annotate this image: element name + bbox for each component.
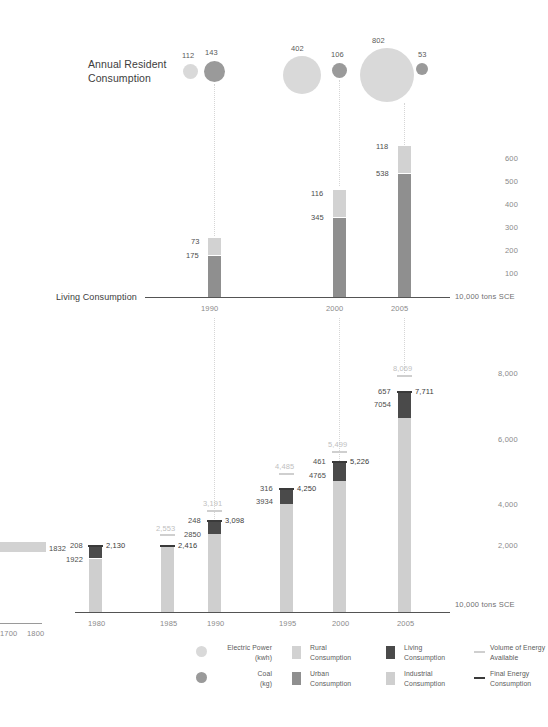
top-bar-value-urban-1990: 175 (186, 251, 199, 260)
legend-label-industrial-consumption: Industrial Consumption (386, 669, 464, 688)
top-bar-urban-2005 (398, 174, 411, 297)
bottom-marker-available-1985 (160, 534, 175, 536)
bottom-marker-final-1980 (88, 545, 103, 547)
legend-item-urban-consumption: Urban Consumption (292, 669, 370, 691)
bottom-bar-value-available-1985: 2,553 (156, 524, 175, 533)
bubble-value-electric-1990: 112 (182, 51, 194, 60)
bottom-bar-value-final-1985: 2,416 (178, 541, 197, 550)
bottom-bar-value-living-1995: 316 (260, 484, 273, 493)
bottom-xtick-1995: 1995 (279, 619, 297, 628)
legend-label-coal: Coal (kg) (196, 669, 272, 688)
bottom-marker-available-2000 (332, 451, 347, 453)
bottom-marker-final-1995 (279, 488, 294, 490)
legend-label-final-energy: Final Energy Consumption (474, 669, 548, 688)
partial-bar-value: 1832 (49, 544, 66, 553)
legend-item-rural-consumption: Rural Consumption (292, 643, 370, 665)
bottom-marker-final-2005 (397, 391, 412, 393)
top-bar-urban-2000 (333, 218, 346, 297)
bottom-bar-value-industrial-2000: 4765 (309, 471, 326, 480)
bubble-value-coal-2005: 53 (418, 50, 427, 59)
partial-axis-line (0, 623, 42, 624)
bubble-coal-2000 (332, 63, 347, 78)
bottom-bar-industrial-1980 (89, 559, 102, 612)
top-unit-label: 10,000 tons SCE (455, 292, 515, 301)
partial-bar-1832 (0, 542, 46, 552)
industrial-consumption-icon (386, 672, 395, 685)
bottom-bar-industrial-2005 (398, 418, 411, 612)
top-xtick-1990: 1990 (201, 304, 219, 313)
rural-consumption-icon (292, 646, 301, 659)
electric-power-icon (196, 646, 207, 657)
bottom-ytick-4000: 4,000 (498, 500, 518, 509)
bottom-bar-industrial-1985 (161, 546, 174, 612)
volume-available-icon (474, 651, 485, 653)
bottom-bar-living-2000 (333, 462, 346, 481)
bottom-bar-industrial-1995 (280, 504, 293, 612)
bubble-electric-2005 (360, 48, 414, 102)
top-bar-value-rural-2000: 116 (311, 189, 323, 198)
top-bar-rural-1990 (208, 238, 221, 255)
top-bar-urban-1990 (208, 256, 221, 297)
top-bar-value-rural-1990: 73 (191, 237, 200, 246)
bottom-bar-value-final-2000: 5,226 (350, 457, 369, 466)
legend-label-volume-available: Volume of Energy Available (474, 643, 548, 662)
bottom-bar-value-industrial-1980: 1922 (66, 555, 83, 564)
bottom-marker-available-2005 (397, 375, 412, 377)
legend-label-living-consumption: Living Consumption (386, 643, 464, 662)
top-ytick-400: 400 (505, 200, 518, 209)
legend-item-coal: Coal (kg) (196, 669, 272, 691)
bottom-marker-final-2000 (332, 461, 347, 463)
bubble-electric-1990 (183, 64, 198, 79)
top-ytick-600: 600 (505, 154, 518, 163)
urban-consumption-icon (292, 672, 301, 685)
bottom-ytick-2000: 2,000 (498, 541, 518, 550)
bottom-bar-living-2005 (398, 392, 411, 418)
bottom-unit-label: 10,000 tons SCE (455, 600, 515, 609)
bottom-marker-available-1990 (207, 510, 222, 512)
bottom-bar-value-final-1980: 2,130 (106, 541, 125, 550)
legend-label-electric-power: Electric Power (kwh) (196, 643, 272, 662)
bottom-bar-value-available-1995: 4,485 (275, 462, 294, 471)
top-ytick-200: 200 (505, 246, 518, 255)
bottom-xtick-1985: 1985 (160, 619, 178, 628)
bottom-marker-final-1990 (207, 520, 222, 522)
infographic-canvas: Annual Resident Consumption 112 143 402 … (0, 0, 548, 727)
bottom-bar-industrial-1990 (208, 534, 221, 612)
bubble-value-electric-2005: 802 (372, 36, 385, 45)
legend-item-volume-available: Volume of Energy Available (474, 643, 548, 665)
bottom-bar-value-industrial-2005: 7054 (374, 400, 391, 409)
bottom-bar-value-living-1990: 248 (188, 516, 201, 525)
bottom-bar-living-1980 (89, 546, 102, 558)
living-consumption-label: Living Consumption (56, 292, 137, 302)
top-bar-value-urban-2005: 538 (376, 169, 389, 178)
living-consumption-icon (386, 646, 395, 659)
bottom-bar-value-available-2000: 5,499 (328, 440, 347, 449)
partial-xtick-1700: 1700 (0, 629, 18, 638)
bubble-coal-2005 (416, 63, 428, 75)
bottom-bar-value-industrial-1995: 3934 (256, 497, 273, 506)
bottom-axis-line (75, 612, 450, 613)
top-ytick-100: 100 (505, 269, 518, 278)
bottom-bar-value-living-2005: 657 (378, 387, 391, 396)
bottom-bar-living-1995 (280, 489, 293, 504)
bottom-bar-value-available-1990: 3,191 (203, 499, 222, 508)
legend-label-urban-consumption: Urban Consumption (292, 669, 370, 688)
top-xtick-2005: 2005 (391, 304, 409, 313)
bottom-bar-value-final-1990: 3,098 (225, 516, 244, 525)
bottom-marker-final-1985 (160, 545, 175, 547)
final-energy-icon (474, 677, 485, 679)
top-bar-rural-2000 (333, 190, 346, 217)
bottom-bar-value-living-1980: 208 (70, 541, 83, 550)
top-axis-line (145, 297, 450, 298)
bubble-value-coal-2000: 106 (331, 50, 344, 59)
top-ytick-300: 300 (505, 223, 518, 232)
connector-1990 (214, 84, 215, 236)
legend-item-final-energy: Final Energy Consumption (474, 669, 548, 691)
top-ytick-500: 500 (505, 177, 518, 186)
bubble-coal-1990 (204, 61, 225, 82)
legend-label-rural-consumption: Rural Consumption (292, 643, 370, 662)
coal-icon (196, 672, 207, 683)
legend-item-living-consumption: Living Consumption (386, 643, 464, 665)
bottom-ytick-8000: 8,000 (498, 369, 518, 378)
bottom-marker-available-1995 (279, 473, 294, 475)
